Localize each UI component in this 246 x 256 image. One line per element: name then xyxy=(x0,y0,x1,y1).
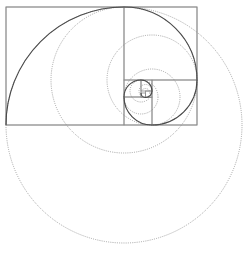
golden-spiral-diagram xyxy=(0,0,246,256)
golden-square xyxy=(6,7,124,125)
golden-square xyxy=(124,7,197,80)
golden-square xyxy=(152,80,197,125)
outer-rectangle xyxy=(6,7,197,125)
golden-spiral-curve xyxy=(6,7,197,125)
golden-rectangle-subdivisions xyxy=(6,7,197,125)
